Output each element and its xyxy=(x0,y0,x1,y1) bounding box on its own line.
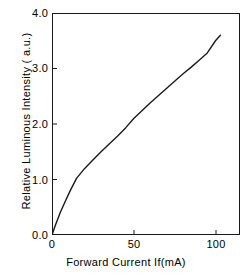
x-axis-ticks xyxy=(134,230,216,235)
y-axis-ticks xyxy=(52,69,57,180)
chart-figure: 4.0 3.0 2.0 1.0 0.0 0 50 100 Forward Cur… xyxy=(0,0,252,277)
x-tick-label-100: 100 xyxy=(207,238,226,250)
x-tick-label-50: 50 xyxy=(128,238,141,250)
y-axis-title-wrapper: Relative Luminous Intensity ( a.u.) xyxy=(19,1,33,241)
data-series-line xyxy=(52,35,220,235)
x-tick-label-0: 0 xyxy=(49,238,55,250)
x-axis-tick-labels: 0 50 100 xyxy=(0,238,252,254)
plot-area xyxy=(52,13,240,235)
y-axis-title: Relative Luminous Intensity ( a.u.) xyxy=(19,1,33,241)
x-axis-title: Forward Current If(mA) xyxy=(0,256,252,269)
